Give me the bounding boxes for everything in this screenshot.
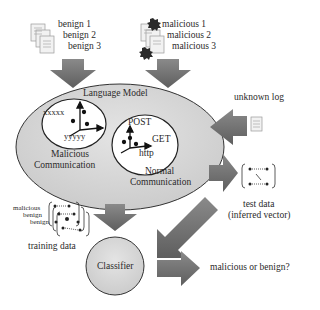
- benign-item-1: benign 1: [58, 19, 91, 29]
- malicious-item-3: malicious 3: [172, 41, 216, 51]
- malicious-axis-x-label: xxxxx: [43, 107, 64, 117]
- benign-documents-icon: [31, 24, 54, 53]
- malicious-item-1: malicious 1: [162, 19, 206, 29]
- normal-axis-get-label: GET: [152, 134, 170, 144]
- arrow-benign-to-model: [50, 59, 96, 88]
- unknown-log-label: unknown log: [234, 92, 284, 102]
- test-data-vector-icon: [242, 164, 275, 188]
- normal-axis-http-label: http: [139, 148, 154, 158]
- test-data-label-2: (inferred vector): [228, 210, 291, 220]
- arrow-test-data-to-classifier: [157, 197, 218, 258]
- unknown-log-document-icon: [251, 117, 262, 131]
- training-stack-label-benign-2: benign: [30, 218, 49, 226]
- benign-item-3: benign 3: [68, 41, 101, 51]
- test-data-label-1: test data: [243, 199, 274, 209]
- language-model-title: Language Model: [83, 88, 148, 98]
- training-data-vectors-icon: [49, 202, 89, 236]
- malicious-axis-y-label: yyyyy: [64, 131, 85, 141]
- malicious-cluster-label-2: Communication: [34, 160, 95, 170]
- benign-item-2: benign 2: [63, 30, 96, 40]
- malicious-cluster-label-1: Malicious: [51, 149, 89, 159]
- normal-axis-post-label: POST: [128, 117, 151, 127]
- normal-cluster-label-1: Normal: [145, 166, 174, 176]
- malicious-item-2: malicious 2: [167, 30, 211, 40]
- malicious-documents-icon: [139, 18, 164, 60]
- training-data-label: training data: [28, 241, 76, 251]
- normal-cluster-label-2: Communication: [130, 177, 191, 187]
- arrow-malicious-to-model: [145, 59, 191, 88]
- classifier-label: Classifier: [97, 261, 133, 271]
- output-label: malicious or benign?: [210, 262, 290, 272]
